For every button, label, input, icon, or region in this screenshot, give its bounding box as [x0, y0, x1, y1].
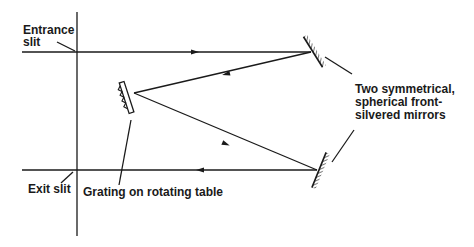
grating-leader: [119, 120, 131, 185]
mirror-leader-top: [325, 57, 352, 74]
arrow-left-icon: [196, 168, 204, 173]
beam-mirror-to-grating: [134, 52, 311, 93]
mirror-leader-bottom: [332, 130, 354, 162]
mirrors-label: Two symmetrical, spherical front- silver…: [355, 83, 455, 122]
entrance-slit-label: Entrance slit: [23, 24, 74, 48]
beam-grating-to-mirror: [134, 93, 317, 170]
arrow-right-icon: [191, 50, 199, 55]
exit-slit-label: Exit slit: [28, 183, 71, 195]
mirror-bottom-icon: [312, 152, 330, 189]
mirror-top-icon: [303, 35, 325, 68]
grating-label: Grating on rotating table: [83, 186, 223, 198]
arrow-right-icon: [221, 140, 230, 148]
grating-icon: [116, 81, 133, 114]
